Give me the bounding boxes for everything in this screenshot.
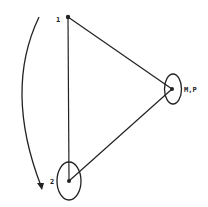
- arrowhead-icon: [37, 183, 44, 190]
- node-1-label: 1: [56, 16, 60, 24]
- node-1-dot: [66, 15, 70, 19]
- node-mp-dot: [170, 87, 174, 91]
- curved-arrow: [22, 17, 41, 186]
- node-mp-label: M,P: [184, 86, 197, 94]
- edge-1-mp: [68, 17, 172, 89]
- edge-2-mp: [69, 89, 172, 181]
- edge-1-2: [68, 17, 69, 181]
- diagram-canvas: 1 2 M,P: [0, 0, 208, 207]
- node-2-label: 2: [50, 178, 54, 186]
- node-2-dot: [67, 179, 71, 183]
